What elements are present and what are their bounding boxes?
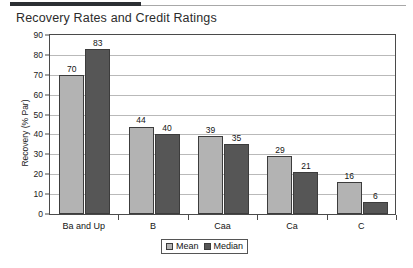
plot-area: 7083444039352921166	[49, 34, 396, 215]
header-rule-dark	[10, 2, 141, 6]
x-tick-mark	[118, 215, 119, 220]
legend-label: Mean	[176, 241, 199, 251]
bar-mean-c	[337, 182, 362, 214]
bar-median-caa	[224, 144, 249, 214]
bar-median-c	[363, 202, 388, 214]
y-tick-label: 50	[3, 110, 43, 120]
y-tick-label: 40	[3, 129, 43, 139]
y-tick-label: 20	[3, 169, 43, 179]
x-tick-label-c: C	[358, 221, 365, 231]
y-tick-label: 60	[3, 90, 43, 100]
x-tick-label-b: B	[150, 221, 156, 231]
bar-value-label: 44	[136, 115, 145, 125]
legend-entry-median[interactable]: Median	[204, 241, 244, 251]
bar-median-b	[155, 134, 180, 214]
legend-swatch-median	[204, 243, 211, 250]
x-tick-mark	[188, 215, 189, 220]
chart-legend: MeanMedian	[161, 239, 248, 254]
x-tick-label-ba-and-up: Ba and Up	[62, 221, 105, 231]
x-tick-mark	[327, 215, 328, 220]
bar-value-label: 6	[373, 191, 378, 201]
x-tick-mark	[257, 215, 258, 220]
bar-median-ba-and-up	[85, 49, 110, 214]
bar-value-label: 35	[232, 133, 241, 143]
legend-entry-mean[interactable]: Mean	[166, 241, 199, 251]
y-tick-label: 10	[3, 189, 43, 199]
y-tick-label: 90	[3, 30, 43, 40]
bar-mean-b	[129, 127, 154, 215]
x-tick-label-caa: Caa	[214, 221, 231, 231]
bar-value-label: 40	[162, 123, 171, 133]
bar-value-label: 21	[301, 161, 310, 171]
y-tick-label: 0	[3, 209, 43, 219]
y-tick-label: 30	[3, 149, 43, 159]
chart-title: Recovery Rates and Credit Ratings	[16, 11, 217, 25]
legend-label: Median	[214, 241, 244, 251]
x-tick-mark	[396, 215, 397, 220]
bar-value-label: 70	[67, 64, 76, 74]
y-tick-label: 70	[3, 70, 43, 80]
x-tick-label-ca: Ca	[286, 221, 298, 231]
bar-mean-ba-and-up	[59, 75, 84, 214]
y-tick-label: 80	[3, 50, 43, 60]
bar-value-label: 16	[345, 171, 354, 181]
legend-swatch-mean	[166, 243, 173, 250]
bar-value-label: 83	[93, 38, 102, 48]
bar-mean-caa	[198, 136, 223, 214]
bar-value-label: 39	[206, 125, 215, 135]
bar-value-label: 29	[275, 145, 284, 155]
bar-median-ca	[293, 172, 318, 214]
bar-mean-ca	[267, 156, 292, 214]
